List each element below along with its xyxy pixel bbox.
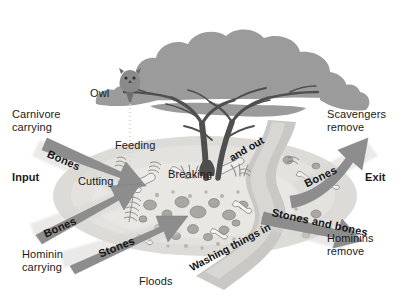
taphonomy-diagram: Carnivore carrying Input Hominin carryin… — [0, 0, 411, 302]
label-scavengers-remove: Scavengers remove — [327, 108, 386, 133]
label-floods: Floods — [139, 275, 173, 288]
label-input: Input — [12, 171, 39, 184]
label-breaking: Breaking — [168, 168, 212, 181]
label-hominin-carrying: Hominin carrying — [22, 248, 63, 273]
label-owl: Owl — [90, 87, 109, 100]
label-feeding: Feeding — [115, 139, 155, 152]
label-cutting: Cutting — [78, 175, 114, 188]
label-exit: Exit — [365, 171, 386, 184]
label-carnivore-carrying: Carnivore carrying — [12, 108, 61, 133]
